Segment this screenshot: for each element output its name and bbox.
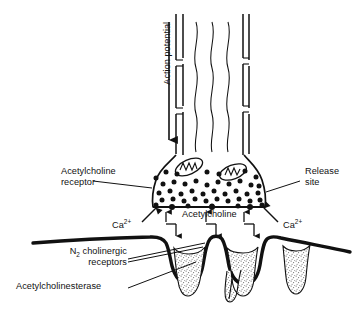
junctional-fold-3 bbox=[283, 245, 310, 294]
action-potential-line2: potential bbox=[162, 22, 172, 57]
acetylcholine-label: Acetylcholine bbox=[182, 209, 237, 220]
junctional-fold-1 bbox=[174, 247, 205, 296]
calcium-right-charge: 2+ bbox=[295, 218, 302, 225]
release-arrow-pair-3 bbox=[244, 212, 254, 236]
acetylcholinesterase-label: Acetylcholinesterase bbox=[16, 281, 101, 292]
axon-node-marks-right bbox=[243, 58, 249, 112]
action-potential-label: Action potential bbox=[162, 10, 173, 96]
release-site-3 bbox=[247, 204, 253, 210]
junctional-fold-2-branched bbox=[225, 247, 258, 302]
acetylcholine-receptor-line2: receptor bbox=[61, 177, 116, 188]
n2-cholinergic-receptors-label: N2 cholinergic receptors bbox=[49, 246, 127, 268]
release-site-line1: Release bbox=[305, 166, 339, 177]
calcium-right-label: Ca2+ bbox=[283, 220, 302, 231]
release-site-line2: site bbox=[305, 177, 339, 188]
calcium-left-label: Ca2+ bbox=[112, 220, 131, 231]
n2-receptors-line1: N2 cholinergic bbox=[49, 246, 127, 257]
neuromuscular-junction-figure: Action potential Acetylcholine receptor … bbox=[0, 0, 359, 313]
acetylcholine-receptor-label: Acetylcholine receptor bbox=[61, 166, 116, 188]
acetylcholine-receptor-line1: Acetylcholine bbox=[61, 166, 116, 177]
calcium-left-text: Ca bbox=[112, 220, 124, 230]
release-site-label: Release site bbox=[305, 166, 339, 188]
leader-release-site bbox=[266, 181, 300, 192]
axon-node-marks-left bbox=[176, 60, 183, 114]
axon-fiber bbox=[176, 14, 249, 156]
calcium-right-text: Ca bbox=[283, 220, 295, 230]
calcium-arrow-left bbox=[142, 208, 156, 222]
release-site-1 bbox=[169, 204, 175, 210]
calcium-left-charge: 2+ bbox=[124, 218, 131, 225]
release-arrow-pair-1 bbox=[166, 212, 176, 236]
n2-receptors-word: cholinergic bbox=[80, 246, 127, 256]
n2-receptors-line2: receptors bbox=[49, 257, 127, 268]
axon-neurofilaments bbox=[195, 22, 230, 152]
action-potential-line1: Action bbox=[162, 59, 172, 85]
calcium-arrow-right bbox=[264, 208, 278, 222]
